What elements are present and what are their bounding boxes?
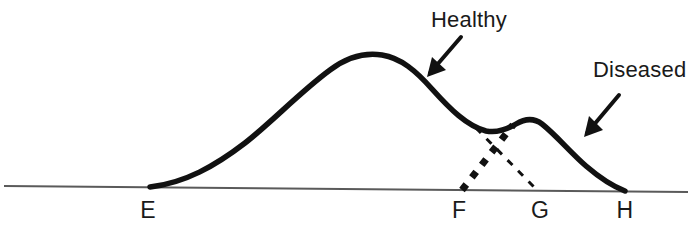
axis-tick-label-h: H xyxy=(617,199,634,222)
threshold-rising-dashed-line xyxy=(462,125,513,190)
axis-tick-label-g: G xyxy=(531,199,549,222)
axis-tick-label-f: F xyxy=(452,199,466,222)
healthy-arrow xyxy=(427,37,461,77)
curve-diagram-svg xyxy=(0,0,692,234)
healthy-label: Healthy xyxy=(431,9,507,31)
figure-canvas: Healthy Diseased E F G H xyxy=(0,0,692,234)
diseased-label: Diseased xyxy=(593,59,686,81)
healthy-diseased-curve xyxy=(150,54,625,191)
diseased-arrow xyxy=(584,95,619,137)
axis-tick-label-e: E xyxy=(140,199,156,222)
x-axis-line xyxy=(4,186,688,192)
